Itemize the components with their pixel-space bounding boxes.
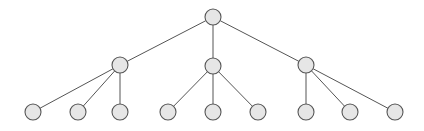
tree-edge: [219, 72, 253, 107]
tree-node-internal[interactable]: [298, 57, 314, 73]
node-layer: [25, 9, 403, 120]
tree-node-leaf[interactable]: [342, 104, 358, 120]
tree-edge: [40, 69, 113, 108]
tree-node-leaf[interactable]: [205, 104, 221, 120]
tree-node-internal[interactable]: [112, 57, 128, 73]
tree-node-leaf[interactable]: [112, 104, 128, 120]
tree-edge: [127, 21, 206, 62]
tree-node-leaf[interactable]: [250, 104, 266, 120]
tree-diagram-canvas: [0, 0, 424, 131]
tree-diagram: [0, 0, 424, 131]
tree-edge: [174, 72, 208, 107]
tree-node-internal[interactable]: [205, 58, 221, 74]
tree-node-leaf[interactable]: [25, 104, 41, 120]
tree-node-leaf[interactable]: [298, 104, 314, 120]
tree-node-leaf[interactable]: [70, 104, 86, 120]
tree-edge: [220, 21, 299, 62]
tree-node-leaf[interactable]: [160, 104, 176, 120]
tree-node-leaf[interactable]: [387, 104, 403, 120]
tree-node-root[interactable]: [205, 9, 221, 25]
tree-edge: [313, 69, 388, 109]
